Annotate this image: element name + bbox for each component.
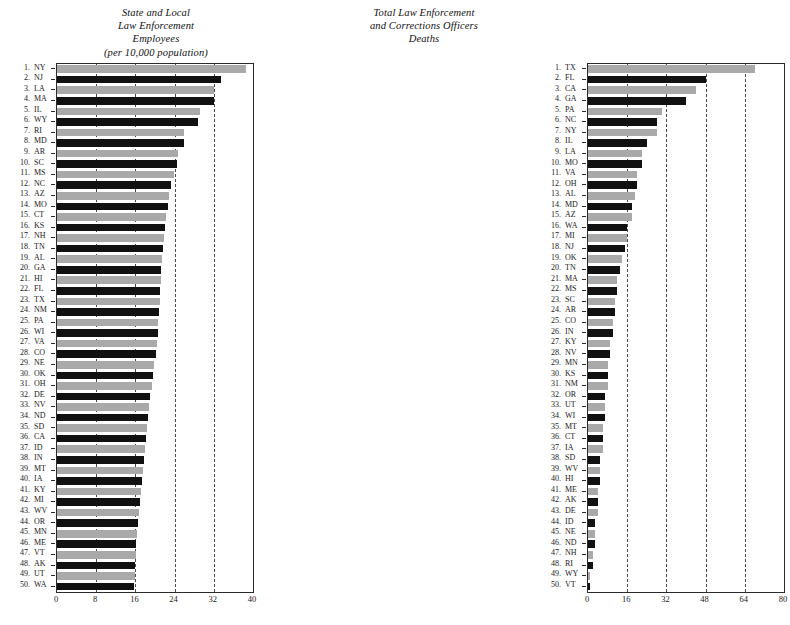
rank-number: 50. bbox=[13, 580, 30, 591]
bar-row bbox=[588, 465, 784, 476]
rank-number: 20. bbox=[13, 263, 30, 274]
bar-row bbox=[57, 529, 253, 540]
category-label: 20.GA bbox=[13, 263, 51, 274]
category-label: 30.KS bbox=[544, 369, 582, 380]
state-abbreviation: AR bbox=[34, 147, 51, 158]
bar-row bbox=[57, 286, 253, 297]
ytick bbox=[582, 396, 586, 397]
bar bbox=[57, 160, 177, 168]
bar bbox=[588, 319, 613, 327]
state-abbreviation: FL bbox=[565, 73, 582, 84]
bar-row bbox=[588, 581, 784, 592]
bar-row bbox=[588, 412, 784, 423]
category-label: 38.IN bbox=[13, 453, 51, 464]
ytick bbox=[582, 322, 586, 323]
bar bbox=[588, 361, 608, 369]
ytick bbox=[51, 206, 55, 207]
state-abbreviation: WA bbox=[565, 221, 582, 232]
bar-row bbox=[588, 170, 784, 181]
xaxis-labels-right: 01632486480 bbox=[580, 594, 790, 610]
bar-row bbox=[588, 244, 784, 255]
rank-number: 18. bbox=[544, 242, 561, 253]
ytick bbox=[582, 311, 586, 312]
bar-row bbox=[57, 370, 253, 381]
state-abbreviation: NY bbox=[565, 126, 582, 137]
ytick bbox=[51, 512, 55, 513]
state-abbreviation: WA bbox=[34, 580, 51, 591]
bar-row bbox=[57, 444, 253, 455]
rank-number: 35. bbox=[13, 422, 30, 433]
bar bbox=[588, 139, 647, 147]
category-label: 15.AZ bbox=[544, 210, 582, 221]
ytick bbox=[582, 417, 586, 418]
bar bbox=[57, 456, 144, 464]
bar bbox=[588, 160, 642, 168]
bar bbox=[588, 171, 637, 179]
rank-number: 39. bbox=[544, 464, 561, 475]
ytick bbox=[51, 375, 55, 376]
rank-number: 42. bbox=[13, 495, 30, 506]
bar-row bbox=[57, 455, 253, 466]
ytick bbox=[582, 438, 586, 439]
state-abbreviation: MD bbox=[34, 136, 51, 147]
bar bbox=[57, 572, 135, 580]
bar bbox=[588, 530, 595, 538]
bar bbox=[588, 245, 625, 253]
state-abbreviation: NE bbox=[565, 527, 582, 538]
rank-number: 7. bbox=[13, 126, 30, 137]
bar bbox=[57, 150, 178, 158]
category-label: 22.FL bbox=[13, 284, 51, 295]
bar-row bbox=[57, 75, 253, 86]
bar-row bbox=[57, 349, 253, 360]
ytick bbox=[582, 206, 586, 207]
xtick-label: 32 bbox=[661, 594, 670, 604]
bar-row bbox=[588, 518, 784, 529]
bar bbox=[57, 245, 163, 253]
state-abbreviation: WY bbox=[34, 115, 51, 126]
ytick bbox=[582, 216, 586, 217]
rank-number: 33. bbox=[544, 400, 561, 411]
bar-row bbox=[588, 106, 784, 117]
bar-row bbox=[57, 539, 253, 550]
rank-number: 44. bbox=[544, 517, 561, 528]
bar bbox=[588, 583, 590, 591]
category-label: 25.PA bbox=[13, 316, 51, 327]
category-label: 13.AL bbox=[544, 189, 582, 200]
bar bbox=[57, 372, 153, 380]
category-label: 8.MD bbox=[13, 136, 51, 147]
rank-number: 4. bbox=[544, 94, 561, 105]
ytick bbox=[51, 470, 55, 471]
state-abbreviation: TX bbox=[565, 63, 582, 74]
category-label: 26.IN bbox=[544, 327, 582, 338]
bar-row bbox=[57, 339, 253, 350]
state-abbreviation: KS bbox=[565, 369, 582, 380]
rank-number: 24. bbox=[13, 305, 30, 316]
rank-number: 6. bbox=[544, 115, 561, 126]
bar bbox=[57, 414, 148, 422]
state-abbreviation: IA bbox=[565, 443, 582, 454]
ytick bbox=[51, 491, 55, 492]
category-label: 12.OH bbox=[544, 179, 582, 190]
bar-row bbox=[588, 529, 784, 540]
bar bbox=[57, 181, 171, 189]
bar-row bbox=[588, 212, 784, 223]
rank-number: 12. bbox=[13, 179, 30, 190]
rank-number: 37. bbox=[544, 443, 561, 454]
category-label: 31.OH bbox=[13, 379, 51, 390]
bar-row bbox=[588, 159, 784, 170]
state-abbreviation: ID bbox=[34, 443, 51, 454]
state-abbreviation: SD bbox=[34, 422, 51, 433]
bar-row bbox=[57, 434, 253, 445]
rank-number: 5. bbox=[544, 105, 561, 116]
chart-title-left: State and Local Law Enforcement Employee… bbox=[0, 6, 270, 59]
bar bbox=[588, 403, 605, 411]
rank-number: 28. bbox=[13, 348, 30, 359]
rank-number: 3. bbox=[544, 84, 561, 95]
category-label: 5.IL bbox=[13, 105, 51, 116]
xtick-label: 0 bbox=[54, 594, 58, 604]
bar-row bbox=[57, 233, 253, 244]
state-abbreviation: AK bbox=[565, 495, 582, 506]
bar bbox=[588, 382, 608, 390]
category-label: 29.NE bbox=[13, 358, 51, 369]
bar bbox=[57, 129, 184, 137]
